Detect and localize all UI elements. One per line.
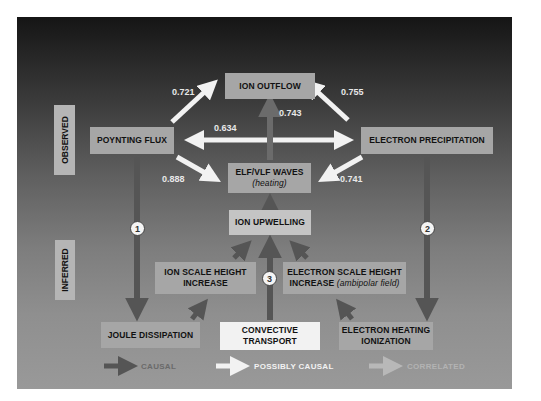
legend-causal-label: CAUSAL <box>141 362 176 371</box>
legend-correlated-label: CORRELATED <box>407 362 465 371</box>
node-convective-transport: CONVECTIVE TRANSPORT <box>220 322 320 350</box>
node-elf-vlf-waves-note: (heating) <box>252 178 286 189</box>
node-ion-scale-height-line2: INCREASE <box>183 278 228 289</box>
node-electron-heating-line1: ELECTRON HEATING <box>342 325 430 336</box>
value-precipitation-to-outflow: 0.755 <box>341 87 364 97</box>
node-elf-vlf-waves: ELF/VLF WAVES (heating) <box>228 163 311 193</box>
node-ion-upwelling: ION UPWELLING <box>229 210 311 235</box>
value-poynting-to-waves: 0.888 <box>162 174 185 184</box>
node-ion-outflow: ION OUTFLOW <box>225 73 315 99</box>
path-marker-3: 3 <box>262 271 277 286</box>
arrow-heating-to-electron-scale <box>341 305 352 319</box>
node-ion-upwelling-label: ION UPWELLING <box>235 217 305 228</box>
node-ion-outflow-label: ION OUTFLOW <box>239 81 301 92</box>
node-ion-scale-height-line1: ION SCALE HEIGHT <box>164 267 246 278</box>
arrow-electron-scale-to-upwelling <box>295 246 307 258</box>
node-elf-vlf-waves-label: ELF/VLF WAVES <box>235 167 303 178</box>
value-waves-to-outflow: 0.743 <box>279 108 302 118</box>
value-precipitation-to-waves: 0.741 <box>340 174 363 184</box>
path-marker-2: 2 <box>420 221 435 236</box>
node-electron-scale-height-line2-wrap: INCREASE (ambipolar field) <box>290 278 400 289</box>
node-electron-scale-height-line1: ELECTRON SCALE HEIGHT <box>287 267 402 278</box>
node-electron-heating: ELECTRON HEATING IONIZATION <box>339 322 433 350</box>
node-joule-dissipation: JOULE DISSIPATION <box>101 322 200 348</box>
node-electron-scale-height-line2: INCREASE <box>290 278 335 288</box>
node-electron-precipitation-label: ELECTRON PRECIPITATION <box>369 135 485 146</box>
value-poynting-precipitation: 0.634 <box>214 123 237 133</box>
legend-possibly-causal-label: POSSIBLY CAUSAL <box>254 362 334 371</box>
node-electron-scale-height: ELECTRON SCALE HEIGHT INCREASE (ambipola… <box>283 262 406 294</box>
node-convective-transport-line1: CONVECTIVE <box>242 325 298 336</box>
inferred-row-label: INFERRED <box>55 240 75 300</box>
node-ion-scale-height: ION SCALE HEIGHT INCREASE <box>155 262 256 294</box>
node-convective-transport-line2: TRANSPORT <box>243 336 297 347</box>
path-marker-1: 1 <box>130 221 145 236</box>
node-electron-scale-height-note: (ambipolar field) <box>337 278 400 288</box>
node-poynting-flux: POYNTING FLUX <box>90 127 174 154</box>
node-poynting-flux-label: POYNTING FLUX <box>97 135 167 146</box>
value-poynting-to-outflow: 0.721 <box>172 87 195 97</box>
inferred-label-text: INFERRED <box>60 248 70 291</box>
arrow-joule-to-ion-scale <box>192 305 203 319</box>
node-electron-precipitation: ELECTRON PRECIPITATION <box>361 127 493 154</box>
arrow-ion-scale-to-upwelling <box>234 246 246 258</box>
observed-row-label: OBSERVED <box>54 105 75 175</box>
node-joule-dissipation-label: JOULE DISSIPATION <box>108 330 193 341</box>
node-electron-heating-line2: IONIZATION <box>361 336 410 347</box>
observed-label-text: OBSERVED <box>60 116 70 164</box>
